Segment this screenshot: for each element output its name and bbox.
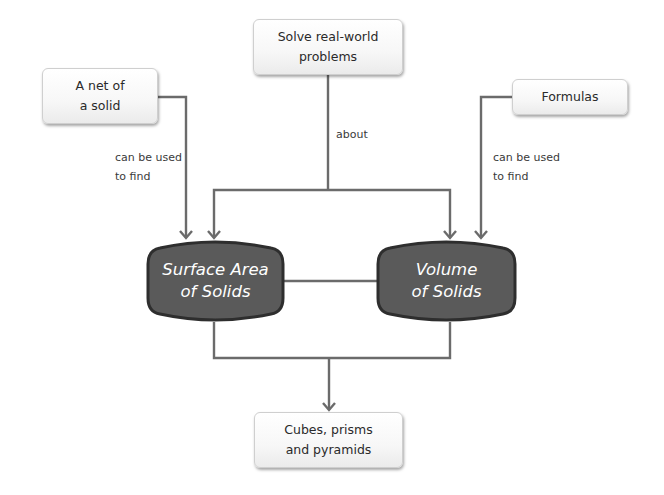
node-cubes-prisms-pyramids: Cubes, prisms and pyramids (254, 412, 403, 468)
node-text: Solve real-world (278, 27, 379, 47)
node-text: A net of (75, 76, 124, 96)
node-text: problems (278, 47, 379, 67)
node-surface-area-of-solids: Surface Area of Solids (146, 238, 285, 323)
edge-label-about: about (336, 125, 368, 144)
edge-label-net-to-surface: can be used to find (115, 148, 182, 186)
node-solve-real-world-problems: Solve real-world problems (253, 19, 403, 75)
node-formulas: Formulas (512, 79, 628, 115)
node-net-of-solid: A net of a solid (42, 68, 158, 124)
edge-label-text: to find (493, 167, 560, 186)
node-text: of Solids (412, 281, 482, 303)
node-text: a solid (75, 96, 124, 116)
node-text: Formulas (541, 87, 598, 107)
edge-label-text: to find (115, 167, 182, 186)
node-text: of Solids (162, 281, 268, 303)
edge-label-text: can be used (493, 148, 560, 167)
node-text: Surface Area (162, 259, 268, 281)
node-volume-of-solids: Volume of Solids (376, 238, 517, 323)
node-text: Volume (412, 259, 482, 281)
node-text: and pyramids (284, 440, 372, 460)
edge-label-text: about (336, 128, 368, 141)
edge-label-formulas-to-volume: can be used to find (493, 148, 560, 186)
node-text: Cubes, prisms (284, 420, 372, 440)
edge-label-text: can be used (115, 148, 182, 167)
